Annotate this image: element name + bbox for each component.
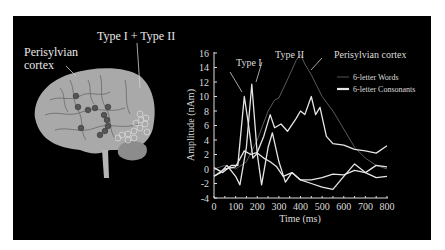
series-line (214, 97, 387, 180)
legend-consonants: 6-letter Consonants (353, 85, 415, 94)
y-tick-label: 16 (199, 48, 209, 59)
y-tick-label: 2 (204, 149, 209, 160)
x-tick-label: 200 (250, 201, 265, 212)
annotation-type-ii: Type II (275, 49, 304, 60)
x-tick-label: 100 (228, 201, 243, 212)
annotation-type-i: Type I (236, 57, 262, 68)
x-tick-label: 700 (358, 201, 373, 212)
legend-words: 6-letter Words (353, 73, 399, 82)
y-axis-label: Amplitude (nAm) (185, 89, 197, 161)
figure-graphics: -4-20246810121416 0100200300400500600700… (0, 0, 445, 250)
y-tick-label: 0 (204, 164, 209, 175)
y-tick-label: 14 (199, 62, 209, 73)
annotation-perisylvian: Perisylvian cortex (334, 49, 406, 60)
y-tick-label: -4 (201, 193, 209, 204)
y-tick-label: 10 (199, 91, 209, 102)
x-tick-label: 600 (336, 201, 351, 212)
label-type-combined: Type I + Type II (97, 30, 175, 43)
x-tick-label: 500 (315, 201, 330, 212)
x-tick-label: 300 (271, 201, 286, 212)
x-axis-label: Time (ms) (279, 213, 321, 225)
x-tick-label: 400 (293, 201, 308, 212)
x-tick-label: 0 (212, 201, 217, 212)
y-tick-label: 12 (199, 77, 209, 88)
y-tick-label: -2 (201, 178, 209, 189)
y-tick-label: 8 (204, 106, 209, 117)
y-tick-label: 4 (204, 135, 209, 146)
y-tick-label: 6 (204, 120, 209, 131)
legend: 6-letter Words 6-letter Consonants (337, 73, 415, 94)
label-perisylvian-line2: cortex (24, 59, 54, 72)
x-tick-label: 800 (380, 201, 395, 212)
